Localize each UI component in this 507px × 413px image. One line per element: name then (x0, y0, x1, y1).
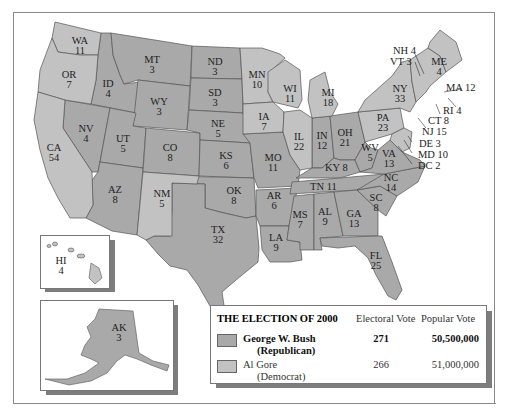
state-ky: KY 8 (325, 163, 348, 173)
state-oh: OH21 (337, 128, 352, 148)
state-id: ID4 (102, 79, 113, 99)
legend-title: THE ELECTION OF 2000 (217, 313, 338, 324)
state-mo: MO11 (265, 153, 282, 173)
callout-vt: VT 3 (390, 57, 412, 67)
hawaii-inset: HI4 (40, 235, 110, 289)
state-ar: AR6 (267, 191, 282, 211)
state-nm: NM5 (154, 189, 171, 209)
callout-dc: DC 2 (418, 161, 440, 171)
alaska-shape (41, 301, 173, 390)
state-nv: NV4 (78, 124, 93, 144)
candidate-bush: George W. Bush (Republican) (243, 333, 316, 357)
state-wa: WA11 (72, 36, 88, 56)
state-co: CO8 (163, 143, 178, 163)
state-tx: TX32 (211, 225, 225, 245)
callout-de: DE 3 (419, 139, 441, 149)
swatch-republican (217, 334, 237, 347)
state-mt: MT3 (144, 55, 160, 75)
alaska-inset: AK3 (40, 300, 174, 391)
callout-md: MD 10 (418, 150, 448, 160)
bush-electoral-vote: 271 (361, 333, 401, 344)
state-ga: GA13 (346, 209, 361, 229)
state-mi: MI18 (322, 88, 335, 108)
state-ny: NY33 (392, 84, 407, 104)
gore-electoral-vote: 266 (361, 359, 401, 370)
swatch-democrat (217, 360, 237, 373)
state-pa: PA23 (377, 113, 389, 133)
callout-ct: CT 8 (428, 116, 449, 126)
state-mn: MN10 (249, 70, 266, 90)
callout-ma: MA 12 (446, 83, 475, 93)
state-ut: UT5 (116, 134, 130, 154)
state-wy: WY3 (150, 97, 168, 117)
state-sc: SC8 (370, 193, 383, 213)
bush-popular-vote: 50,500,000 (411, 333, 479, 344)
state-al: AL9 (318, 207, 332, 227)
state-ok: OK8 (226, 186, 241, 206)
callout-nh: NH 4 (393, 46, 416, 56)
state-va: VA13 (382, 149, 396, 169)
state-az: AZ8 (108, 185, 122, 205)
state-wv: WV5 (361, 143, 379, 163)
state-ca: CA54 (47, 143, 62, 163)
legend-header-popular: Popular Vote (421, 313, 475, 324)
election-legend: THE ELECTION OF 2000 Electoral Vote Popu… (210, 305, 487, 384)
candidate-gore: Al Gore (Democrat) (243, 359, 305, 383)
state-or: OR7 (62, 70, 77, 90)
callout-nj: NJ 15 (422, 127, 447, 137)
state-ms: MS7 (292, 210, 307, 230)
state-ne: NE5 (211, 119, 225, 139)
state-in: IN12 (316, 131, 327, 151)
state-il: IL22 (294, 132, 305, 152)
legend-header-electoral: Electoral Vote (356, 313, 415, 324)
gore-popular-vote: 51,000,000 (411, 359, 479, 370)
state-ia: IA7 (258, 112, 269, 132)
state-fl: FL25 (370, 251, 382, 271)
state-me: ME4 (431, 57, 447, 77)
state-sd: SD3 (208, 88, 221, 108)
state-wi: WI11 (283, 84, 296, 104)
state-nd: ND3 (207, 57, 222, 77)
state-hi: HI4 (55, 256, 66, 276)
state-tn: TN 11 (310, 182, 337, 192)
state-nc: NC14 (384, 173, 399, 193)
state-ks: KS6 (219, 151, 232, 171)
hawaii-shape (41, 236, 109, 288)
state-ak: AK3 (111, 323, 126, 343)
state-la: LA9 (269, 233, 283, 253)
